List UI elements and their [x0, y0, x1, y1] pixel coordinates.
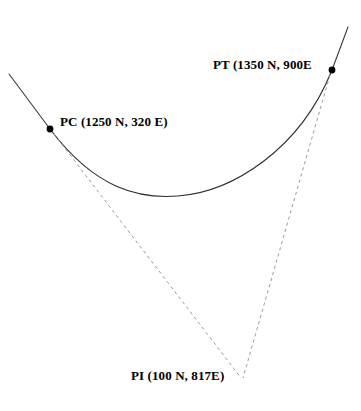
pt-label: PT (1350 N, 900E [213, 57, 312, 73]
curve-diagram: PT (1350 N, 900E PC (1250 N, 320 E) PI (… [0, 0, 361, 411]
pc-label: PC (1250 N, 320 E) [60, 114, 168, 130]
forward-tangent-line [332, 27, 348, 70]
pi-label: PI (100 N, 817E) [131, 368, 224, 384]
back-tangent-line [9, 74, 50, 129]
circular-curve [50, 70, 332, 197]
pc-to-pi-dashed-line [54, 134, 241, 378]
pt-point-marker [329, 67, 336, 74]
pt-to-pi-dashed-line [243, 75, 330, 378]
pc-point-marker [47, 126, 54, 133]
